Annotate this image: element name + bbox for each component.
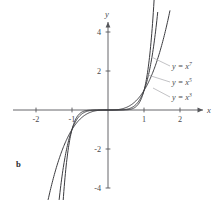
legend-label-x7: y = x7 (171, 61, 192, 71)
x-tick-label-neg1: -1 (69, 115, 76, 124)
legend-base-x5: y = x (171, 78, 189, 87)
y-axis-group (106, 22, 111, 188)
figure-container: -2 -1 1 2 4 2 -2 -4 x y y = x7 y = x5 y … (0, 0, 224, 200)
y-tick-label-neg2: -2 (94, 145, 101, 154)
y-tick-label-neg4: -4 (94, 184, 101, 193)
legend-exponent-x7: 7 (189, 61, 192, 67)
legend-exponent-x3: 3 (188, 92, 192, 98)
leader-line-x7 (153, 58, 171, 67)
legend-exponent-x5: 5 (189, 77, 192, 83)
legend-base-x3: y = x (171, 93, 189, 102)
x-tick-label-pos2: 2 (178, 115, 182, 124)
leader-line-x5 (148, 75, 170, 82)
y-tick-label-pos2: 2 (97, 67, 101, 76)
x-axis-label: x (206, 105, 211, 115)
legend-label-x3: y = x3 (171, 92, 192, 102)
x-axis-arrowhead (198, 108, 204, 113)
leader-line-x3 (153, 88, 170, 97)
function-plot: -2 -1 1 2 4 2 -2 -4 x y y = x7 y = x5 y … (0, 0, 224, 200)
legend-label-x5: y = x5 (171, 77, 192, 87)
y-tick-label-pos4: 4 (97, 28, 101, 37)
x-tick-label-neg2: -2 (33, 115, 40, 124)
x-tick-label-pos1: 1 (142, 115, 146, 124)
y-axis-arrowhead (106, 22, 111, 28)
legend-base-x7: y = x (171, 62, 189, 71)
y-axis-label: y (104, 9, 109, 19)
panel-label-b: b (16, 159, 21, 169)
